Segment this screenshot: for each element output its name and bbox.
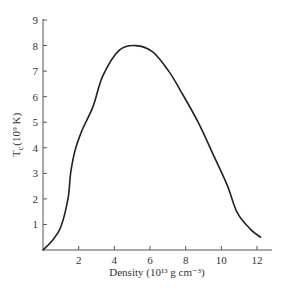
y-tick-label: 9 [33, 14, 39, 26]
y-ticks: 123456789 [33, 14, 48, 230]
x-tick-label: 12 [252, 254, 263, 266]
axes [43, 19, 272, 250]
chart: 123456789 24681012 Density (10¹³ g cm⁻³)… [0, 0, 287, 293]
x-tick-label: 8 [183, 254, 189, 266]
y-tick-label: 8 [33, 40, 39, 52]
y-tick-label: 4 [33, 142, 39, 154]
y-tick-label: 7 [33, 65, 39, 77]
y-tick-label: 6 [33, 91, 39, 103]
y-tick-label: 1 [33, 218, 39, 230]
x-tick-label: 6 [147, 254, 153, 266]
y-axis-label-unit: (10⁹ K) [10, 113, 23, 146]
x-ticks: 24681012 [76, 246, 263, 266]
x-tick-label: 4 [112, 254, 118, 266]
y-tick-label: 2 [33, 193, 39, 205]
y-tick-label: 5 [33, 116, 39, 128]
x-axis-label: Density (10¹³ g cm⁻³) [109, 266, 205, 279]
x-tick-label: 10 [216, 254, 228, 266]
y-axis-label-sub: c [16, 146, 25, 150]
y-axis-label: Tc(10⁹ K) [10, 113, 25, 157]
tc-density-curve [43, 46, 261, 250]
x-tick-label: 2 [76, 254, 82, 266]
y-tick-label: 3 [33, 167, 39, 179]
